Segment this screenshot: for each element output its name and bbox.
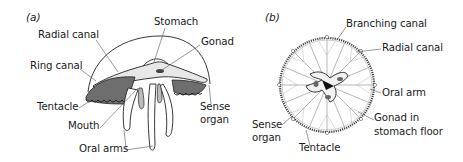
label-gonad-a: Gonad (201, 36, 234, 48)
label-branching-canal: Branching canal (346, 18, 427, 30)
label-stomach: Stomach (154, 16, 198, 28)
label-radial-canal-b: Radial canal (382, 42, 443, 54)
label-radial-canal-a: Radial canal (38, 29, 99, 41)
label-sense-organ-a-line2: organ (200, 114, 229, 126)
label-tentacle-a: Tentacle (37, 101, 78, 113)
label-oral-arm: Oral arm (382, 87, 426, 99)
label-tentacle-b: Tentacle (299, 142, 340, 154)
label-oral-arms: Oral arms (79, 143, 128, 155)
panel-b-tag: (b) (265, 11, 280, 23)
label-sense-organ-b-line2: organ (252, 132, 281, 144)
label-sense-organ-a-line1: Sense (200, 101, 230, 113)
panel-a-tag: (a) (26, 11, 41, 23)
label-sense-organ-b-line1: Sense (252, 119, 282, 131)
label-mouth: Mouth (68, 120, 99, 132)
label-gonad-b-line2: stomach floor (374, 126, 443, 138)
jellyfish-anatomy-figure: (a) Radial canal Stomach Gonad Ring cana… (0, 0, 463, 162)
label-gonad-b-line1: Gonad in (374, 112, 419, 124)
label-ring-canal: Ring canal (30, 60, 82, 72)
